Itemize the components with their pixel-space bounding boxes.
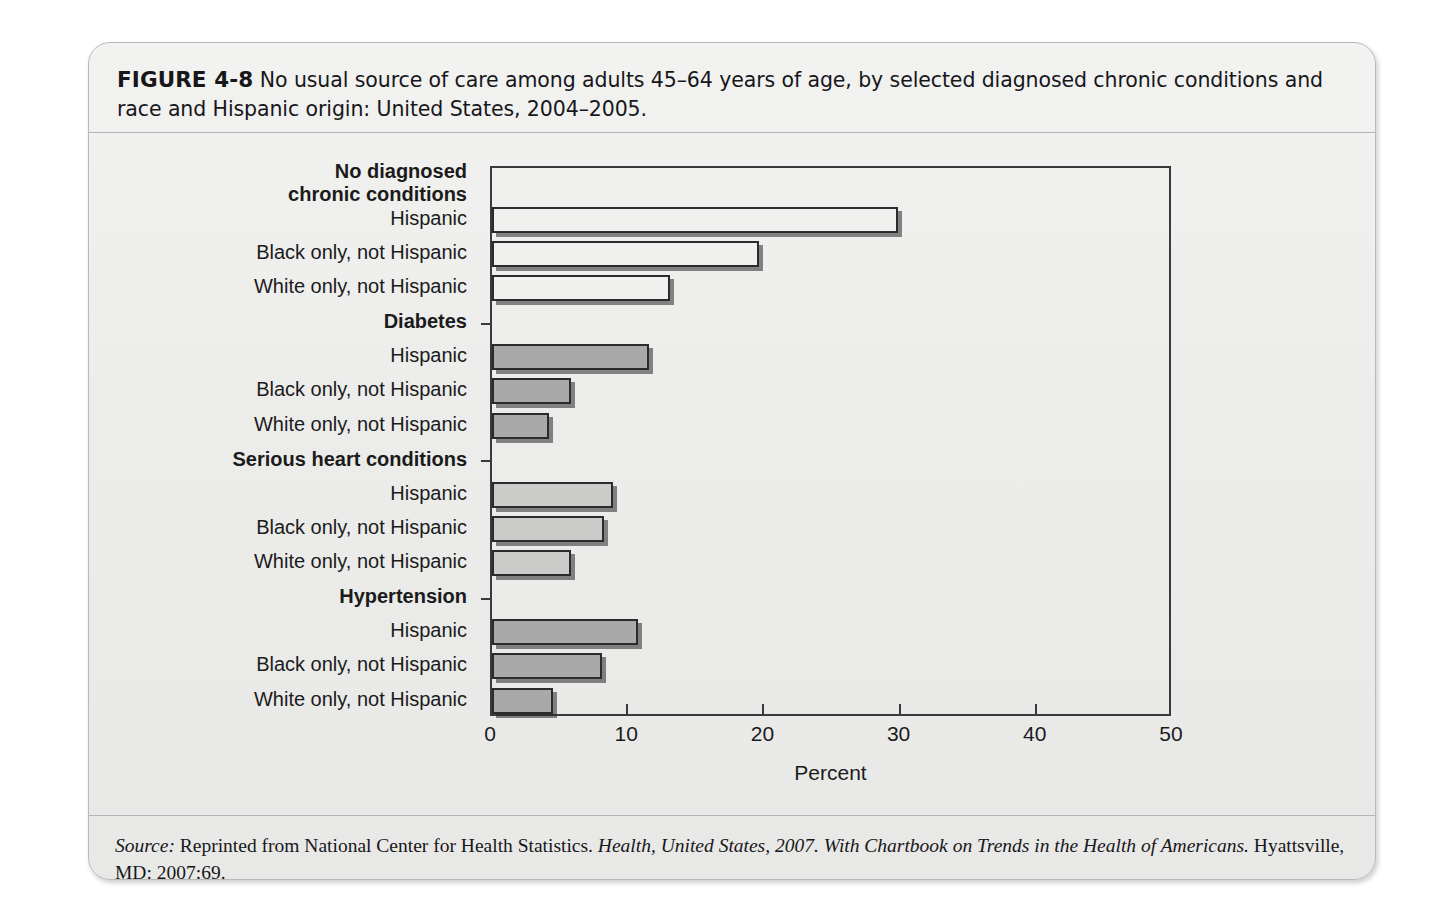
bar xyxy=(492,653,602,679)
x-axis-tick xyxy=(899,704,901,716)
x-axis-tick xyxy=(1035,704,1037,716)
bar xyxy=(492,482,613,508)
bar xyxy=(492,516,604,542)
bar xyxy=(492,550,571,576)
bar xyxy=(492,207,898,233)
x-axis-title: Percent xyxy=(490,761,1171,785)
source-italic-1: Health, United States, 2007. xyxy=(598,835,819,856)
y-axis-category-label: Black only, not Hispanic xyxy=(256,377,467,401)
bar xyxy=(492,275,670,301)
figure-caption-body: No usual source of care among adults 45–… xyxy=(117,68,1323,121)
y-axis-group-label-line: chronic conditions xyxy=(288,183,467,206)
y-axis-label-column: No diagnosedchronic conditionsHispanicBl… xyxy=(149,166,479,716)
x-axis-tick xyxy=(626,704,628,716)
y-axis-group-label-line: No diagnosed xyxy=(288,160,467,183)
figure-number-label: FIGURE 4-8 xyxy=(117,67,253,92)
bar xyxy=(492,378,571,404)
y-axis-group-tick xyxy=(481,460,492,462)
y-axis-category-label: Black only, not Hispanic xyxy=(256,240,467,264)
bar xyxy=(492,241,759,267)
bar xyxy=(492,413,549,439)
y-axis-category-label: Hispanic xyxy=(390,618,467,642)
y-axis-category-label: Black only, not Hispanic xyxy=(256,515,467,539)
y-axis-category-label: White only, not Hispanic xyxy=(254,549,467,573)
source-italic-2: With Chartbook on Trends in the Health o… xyxy=(824,835,1249,856)
plot-frame xyxy=(490,166,1171,716)
y-axis-group-label-line: Diabetes xyxy=(384,309,467,333)
y-axis-group-label: Hypertension xyxy=(339,584,467,608)
y-axis-group-label-line: Hypertension xyxy=(339,584,467,608)
y-axis-group-tick xyxy=(481,323,492,325)
y-axis-group-tick xyxy=(481,598,492,600)
chart-plot-region: No diagnosedchronic conditionsHispanicBl… xyxy=(89,133,1375,815)
x-axis-tick-label: 10 xyxy=(615,722,638,746)
x-axis-ticks: 01020304050 xyxy=(490,716,1171,717)
y-axis-category-label: Hispanic xyxy=(390,206,467,230)
figure-source-text: Source: Reprinted from National Center f… xyxy=(115,832,1349,880)
y-axis-category-label: Black only, not Hispanic xyxy=(256,652,467,676)
x-axis-tick xyxy=(762,704,764,716)
source-part-1: Reprinted from National Center for Healt… xyxy=(175,835,598,856)
figure-caption-block: FIGURE 4-8 No usual source of care among… xyxy=(89,43,1375,133)
x-axis-tick-label: 50 xyxy=(1159,722,1182,746)
x-axis-tick-label: 30 xyxy=(887,722,910,746)
y-axis-category-label: Hispanic xyxy=(390,343,467,367)
y-axis-group-label: Diabetes xyxy=(384,309,467,333)
bar xyxy=(492,619,638,645)
figure-caption-text: FIGURE 4-8 No usual source of care among… xyxy=(117,65,1347,124)
figure-source-block: Source: Reprinted from National Center f… xyxy=(89,815,1375,880)
x-axis-tick-label: 40 xyxy=(1023,722,1046,746)
y-axis-category-label: White only, not Hispanic xyxy=(254,412,467,436)
source-prefix: Source: xyxy=(115,835,175,856)
bar xyxy=(492,688,553,714)
x-axis-tick-label: 0 xyxy=(484,722,496,746)
y-axis-group-label-line: Serious heart conditions xyxy=(233,447,467,471)
y-axis-category-label: Hispanic xyxy=(390,481,467,505)
y-axis-category-label: White only, not Hispanic xyxy=(254,274,467,298)
y-axis-category-label: White only, not Hispanic xyxy=(254,687,467,711)
x-axis-tick-label: 20 xyxy=(751,722,774,746)
bar xyxy=(492,344,649,370)
y-axis-group-label: Serious heart conditions xyxy=(233,447,467,471)
y-axis-group-label: No diagnosedchronic conditions xyxy=(288,160,467,206)
figure-card: FIGURE 4-8 No usual source of care among… xyxy=(88,42,1376,880)
